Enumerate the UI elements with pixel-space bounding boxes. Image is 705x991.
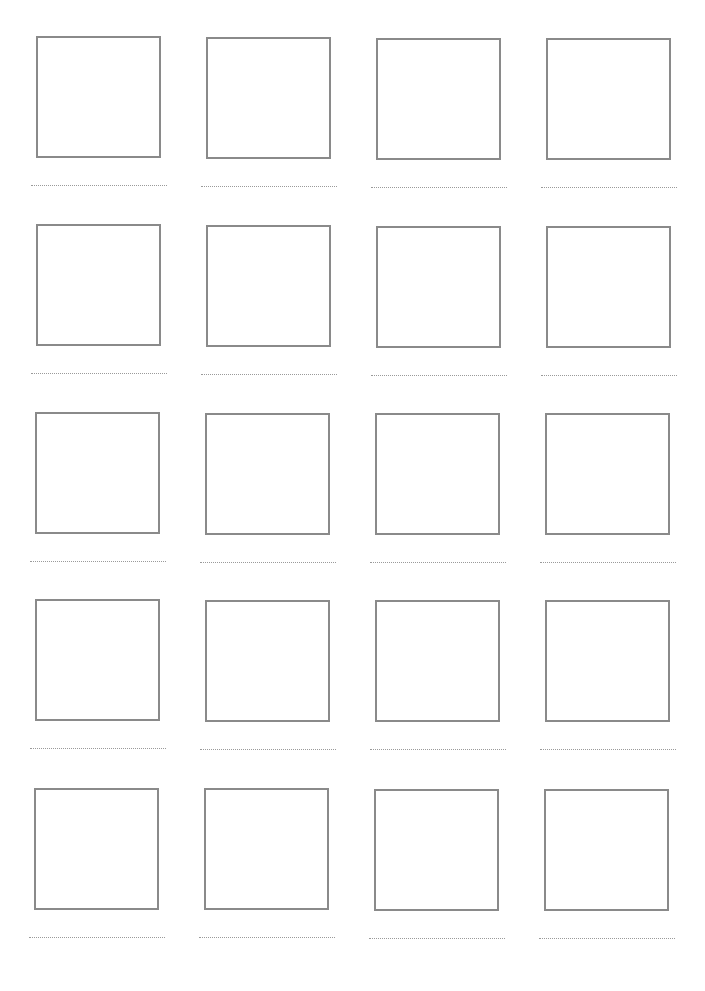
worksheet-cell-r1-c3 (376, 38, 516, 208)
worksheet-cell-r3-c3 (375, 413, 515, 583)
worksheet-cell-r5-c2 (204, 788, 344, 958)
caption-dotted-line (541, 187, 677, 188)
caption-dotted-line (370, 562, 506, 563)
caption-dotted-line (201, 186, 337, 187)
caption-dotted-line (539, 938, 675, 939)
drawing-box (374, 789, 499, 911)
drawing-box (544, 789, 669, 911)
drawing-box (35, 599, 160, 721)
worksheet-cell-r2-c3 (376, 226, 516, 396)
worksheet-cell-r3-c1 (35, 412, 175, 582)
drawing-box (204, 788, 329, 910)
worksheet-cell-r2-c4 (546, 226, 686, 396)
worksheet-cell-r4-c1 (35, 599, 175, 769)
caption-dotted-line (200, 749, 336, 750)
drawing-box (206, 37, 331, 159)
worksheet-cell-r2-c1 (36, 224, 176, 394)
caption-dotted-line (370, 749, 506, 750)
caption-dotted-line (541, 375, 677, 376)
worksheet-cell-r1-c2 (206, 37, 346, 207)
caption-dotted-line (199, 937, 335, 938)
worksheet-cell-r5-c3 (374, 789, 514, 959)
worksheet-cell-r5-c4 (544, 789, 684, 959)
drawing-box (546, 226, 671, 348)
caption-dotted-line (369, 938, 505, 939)
caption-dotted-line (31, 185, 167, 186)
worksheet-cell-r4-c2 (205, 600, 345, 770)
worksheet-cell-r2-c2 (206, 225, 346, 395)
drawing-box (205, 413, 330, 535)
worksheet-cell-r4-c4 (545, 600, 685, 770)
drawing-box (34, 788, 159, 910)
caption-dotted-line (30, 748, 166, 749)
caption-dotted-line (31, 373, 167, 374)
caption-dotted-line (540, 562, 676, 563)
worksheet-cell-r1-c1 (36, 36, 176, 206)
drawing-box (35, 412, 160, 534)
drawing-box (546, 38, 671, 160)
caption-dotted-line (371, 375, 507, 376)
worksheet-cell-r1-c4 (546, 38, 686, 208)
drawing-box (36, 224, 161, 346)
drawing-box (375, 413, 500, 535)
drawing-box (206, 225, 331, 347)
caption-dotted-line (30, 561, 166, 562)
drawing-box (376, 226, 501, 348)
drawing-box (376, 38, 501, 160)
caption-dotted-line (371, 187, 507, 188)
drawing-box (545, 413, 670, 535)
worksheet-cell-r3-c2 (205, 413, 345, 583)
drawing-box (205, 600, 330, 722)
drawing-box (375, 600, 500, 722)
caption-dotted-line (201, 374, 337, 375)
caption-dotted-line (540, 749, 676, 750)
drawing-box (36, 36, 161, 158)
caption-dotted-line (29, 937, 165, 938)
caption-dotted-line (200, 562, 336, 563)
drawing-box (545, 600, 670, 722)
worksheet-cell-r5-c1 (34, 788, 174, 958)
worksheet-cell-r3-c4 (545, 413, 685, 583)
worksheet-cell-r4-c3 (375, 600, 515, 770)
